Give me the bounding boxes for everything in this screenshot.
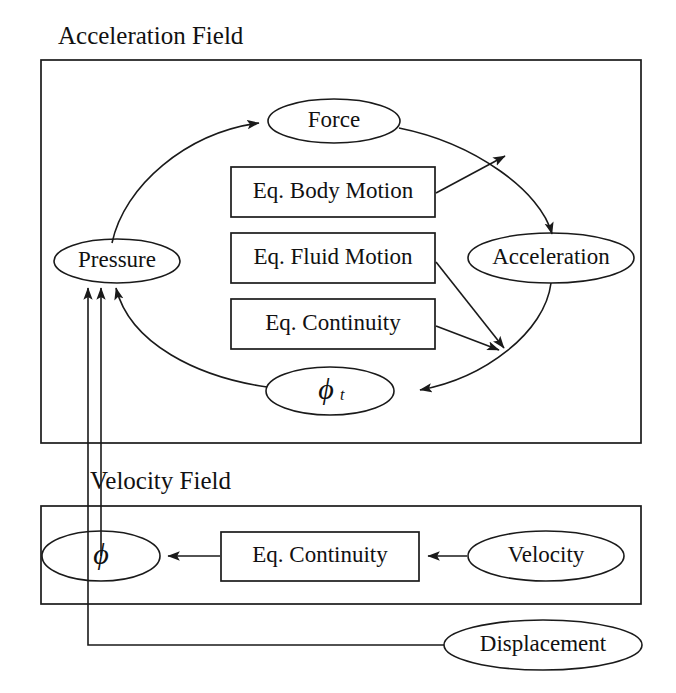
eq-fluid-motion-node[interactable]: Eq. Fluid Motion <box>231 233 435 283</box>
eq-continuity-velocity-label: Eq. Continuity <box>252 542 388 567</box>
phi-label: ϕ <box>93 537 109 570</box>
acceleration-field-title: Acceleration Field <box>58 22 244 49</box>
eq-continuity-velocity-node[interactable]: Eq. Continuity <box>221 532 419 581</box>
phi-t-subscript: t <box>340 386 345 403</box>
force-label: Force <box>308 107 360 132</box>
acceleration-label: Acceleration <box>492 244 610 269</box>
eq-continuity-acceleration-label: Eq. Continuity <box>265 310 401 335</box>
velocity-label: Velocity <box>508 542 585 567</box>
displacement-label: Displacement <box>480 631 607 656</box>
eq-body-motion-label: Eq. Body Motion <box>253 178 414 203</box>
eq-body-motion-node[interactable]: Eq. Body Motion <box>231 167 435 217</box>
eq-continuity-acceleration-node[interactable]: Eq. Continuity <box>231 299 435 349</box>
phi-t-label: ϕ <box>318 372 334 405</box>
eq-fluid-motion-label: Eq. Fluid Motion <box>253 244 413 269</box>
pressure-label: Pressure <box>78 247 156 272</box>
diagram-canvas: Acceleration Field Eq. Body Motion Eq. F… <box>0 0 676 693</box>
velocity-field-title: Velocity Field <box>90 467 231 494</box>
